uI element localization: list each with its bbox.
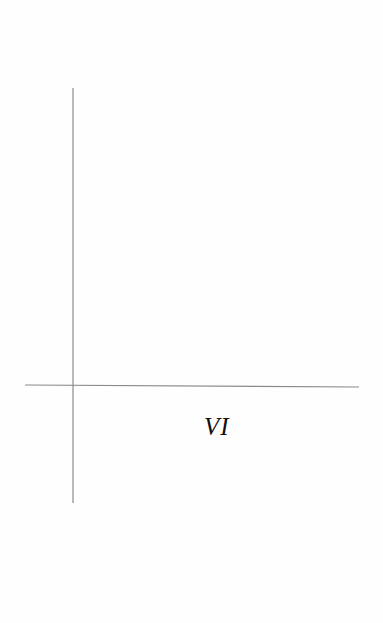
horizontal-axis-line: [25, 385, 359, 387]
axes-diagram: [0, 0, 383, 623]
quadrant-label: VI: [204, 414, 230, 439]
